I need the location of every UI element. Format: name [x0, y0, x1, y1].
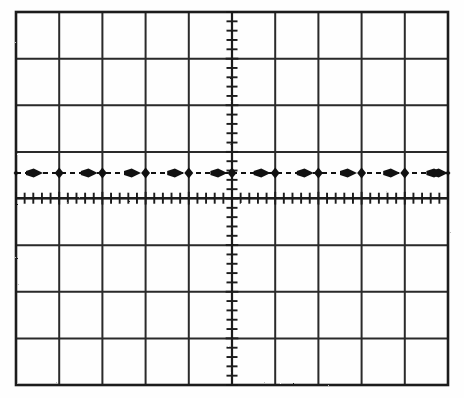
vertical-axis-minor-ticks	[226, 12, 239, 385]
graticule-svg	[0, 0, 464, 398]
oscilloscope-screen	[0, 0, 464, 398]
